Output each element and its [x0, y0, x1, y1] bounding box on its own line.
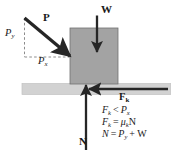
label-normal-N: N [79, 136, 87, 147]
block [70, 28, 118, 84]
eq2-rhs-tail: N [129, 116, 136, 127]
label-py-component: Py [5, 28, 15, 40]
eq3-rhs-tail: + W [127, 128, 146, 139]
fk-subscript: k [125, 96, 129, 103]
label-weight-W: W [101, 4, 112, 15]
eq3-rel: = [109, 128, 119, 139]
label-px-component: Px [38, 56, 48, 68]
label-applied-force-P: P [43, 12, 50, 23]
eq2-rel: = [111, 116, 121, 127]
eq3-lhs: N [102, 128, 109, 139]
py-subscript: y [11, 32, 14, 39]
equation-friction-definition: Fk=μkN [102, 117, 136, 128]
applied-force-arrow [25, 18, 71, 56]
px-subscript: x [44, 60, 47, 67]
label-friction-Fk: Fk [119, 92, 129, 104]
eq1-rhs-sub: x [127, 109, 130, 116]
equation-normal-force: N=Py+ W [102, 129, 147, 140]
eq1-rel: < [111, 104, 121, 115]
equation-friction-less-than-px: Fk<Px [102, 105, 130, 116]
free-body-diagram: P Py Px W N Fk Fk<Px Fk=μkN N=Py+ W [0, 0, 171, 155]
